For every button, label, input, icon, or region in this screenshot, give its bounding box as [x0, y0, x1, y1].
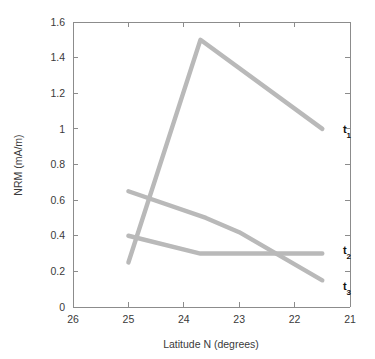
- chart-figure: 00.20.40.60.811.21.41.6 262524232221 t1t…: [0, 0, 375, 359]
- y-tick-label: 0.6: [50, 194, 65, 206]
- x-axis-title: Latitude N (degrees): [163, 338, 259, 350]
- y-tick-label: 0: [59, 301, 65, 313]
- series-line-t2: [128, 191, 322, 280]
- chart-axes: [73, 22, 350, 307]
- y-tick-label: 0.4: [50, 229, 65, 241]
- y-tick-label: 1: [59, 123, 65, 135]
- x-axis-ticks: 262524232221: [67, 22, 356, 325]
- data-series-group: [128, 40, 322, 280]
- y-tick-label: 1.6: [50, 16, 65, 28]
- x-tick-label: 26: [67, 313, 79, 325]
- x-tick-label: 22: [289, 313, 301, 325]
- y-tick-label: 1.4: [50, 51, 65, 63]
- y-tick-label: 0.8: [50, 158, 65, 170]
- y-tick-label: 0.2: [50, 265, 65, 277]
- series-line-t1: [128, 40, 322, 263]
- nrm-vs-latitude-line-chart: 00.20.40.60.811.21.41.6 262524232221 t1t…: [0, 0, 375, 359]
- x-tick-label: 21: [344, 313, 356, 325]
- x-tick-label: 24: [178, 313, 190, 325]
- y-axis-title: NRM (mA/m): [12, 134, 24, 195]
- y-tick-label: 1.2: [50, 87, 65, 99]
- x-tick-label: 23: [233, 313, 245, 325]
- x-tick-label: 25: [123, 313, 135, 325]
- series-line-t3: [128, 236, 322, 254]
